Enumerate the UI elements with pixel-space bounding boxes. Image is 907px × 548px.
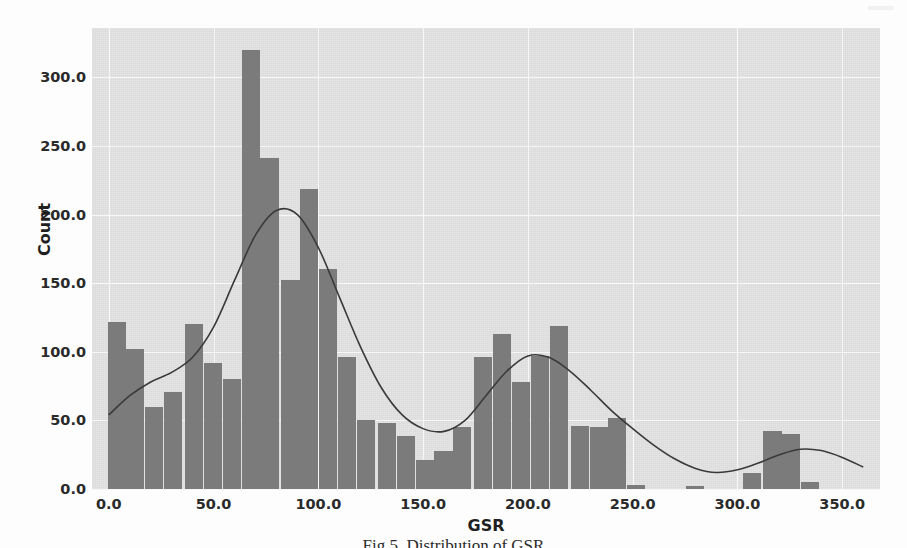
x-tick-label: 250.0 — [588, 496, 678, 512]
x-axis-ticks: 0.050.0100.0150.0200.0250.0300.0350.0 — [92, 496, 880, 516]
y-tick-label: 50.0 — [4, 413, 86, 427]
figure-container: 0.050.0100.0150.0200.0250.0300.0 0.050.0… — [0, 0, 907, 548]
gridline-horizontal — [92, 489, 880, 490]
x-tick-label: 300.0 — [692, 496, 782, 512]
y-axis-label: Count — [35, 170, 54, 290]
kde-curve-path — [109, 209, 863, 473]
plot-area — [92, 28, 880, 489]
x-axis-label: GSR — [92, 516, 880, 535]
y-tick-label: 250.0 — [4, 139, 86, 153]
x-tick-label: 200.0 — [483, 496, 573, 512]
x-tick-label: 100.0 — [273, 496, 363, 512]
x-tick-label: 150.0 — [378, 496, 468, 512]
scan-speckle — [868, 6, 894, 10]
x-tick-label: 350.0 — [797, 496, 887, 512]
y-tick-label: 0.0 — [4, 482, 86, 496]
y-tick-label: 100.0 — [4, 345, 86, 359]
figure-caption: Fig 5. Distribution of GSR — [0, 536, 907, 548]
kde-curve — [92, 28, 880, 489]
y-tick-label: 300.0 — [4, 70, 86, 84]
x-tick-label: 50.0 — [169, 496, 259, 512]
x-tick-label: 0.0 — [64, 496, 154, 512]
